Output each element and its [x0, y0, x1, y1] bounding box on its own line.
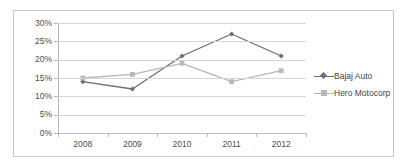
y-axis-tick [54, 96, 58, 97]
x-axis-tick-label: 2008 [63, 139, 103, 150]
y-axis-tick-label: 20% [18, 55, 52, 64]
x-axis-tick-label: 2010 [162, 139, 202, 150]
y-axis-tick-label: 10% [18, 92, 52, 101]
data-point-marker [229, 79, 234, 84]
x-axis-tick-label: 2011 [212, 139, 252, 150]
x-axis-ticks [58, 133, 306, 138]
plot-area [58, 23, 306, 133]
gridline [58, 96, 306, 97]
chart-legend: Bajaj Auto Hero Motocorp [314, 69, 392, 103]
data-point-marker [229, 31, 234, 36]
legend-marker-diamond-icon [314, 71, 334, 81]
gridline [58, 23, 306, 24]
x-axis-tick [207, 133, 208, 137]
legend-item-hero-motocorp[interactable]: Hero Motocorp [314, 86, 392, 100]
x-axis-tick [58, 133, 59, 137]
y-axis-tick [54, 23, 58, 24]
gridline [58, 115, 306, 116]
x-axis-tick [157, 133, 158, 137]
legend-item-bajaj-auto[interactable]: Bajaj Auto [314, 69, 392, 83]
legend-label: Hero Motocorp [334, 88, 390, 98]
legend-marker-square-icon [314, 88, 334, 98]
y-axis-labels: 0%5%10%15%20%25%30% [14, 23, 52, 133]
y-axis-tick-label: 25% [18, 37, 52, 46]
gridline [58, 78, 306, 79]
legend-label: Bajaj Auto [334, 71, 372, 81]
chart-container: 0%5%10%15%20%25%30% 20082009201020112012… [13, 10, 394, 157]
x-axis-tick-label: 2009 [112, 139, 152, 150]
x-axis-labels: 20082009201020112012 [58, 139, 306, 151]
x-axis-tick [108, 133, 109, 137]
gridline [58, 41, 306, 42]
chart-inner: 0%5%10%15%20%25%30% 20082009201020112012… [14, 11, 393, 156]
x-axis-tick-label: 2012 [261, 139, 301, 150]
data-point-marker [279, 53, 284, 58]
y-axis-tick [54, 60, 58, 61]
x-axis-tick [306, 133, 307, 137]
data-point-marker [180, 61, 185, 66]
data-point-marker [279, 68, 284, 73]
y-axis-tick [54, 41, 58, 42]
y-axis-tick [54, 115, 58, 116]
y-axis-tick-label: 5% [18, 110, 52, 119]
y-axis-tick-label: 30% [18, 19, 52, 28]
y-axis-tick-label: 0% [18, 129, 52, 138]
x-axis-tick [256, 133, 257, 137]
y-axis-tick-label: 15% [18, 74, 52, 83]
data-point-marker [130, 72, 135, 77]
gridline [58, 60, 306, 61]
y-axis-tick [54, 133, 58, 134]
y-axis-tick [54, 78, 58, 79]
